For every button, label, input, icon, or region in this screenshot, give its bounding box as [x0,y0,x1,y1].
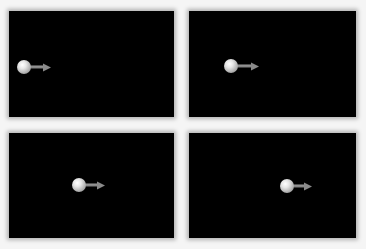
frame-2-panel [189,11,356,117]
figure-stage [0,0,366,249]
ball-icon [72,178,86,192]
ball-icon [224,59,238,73]
ball-icon [17,60,31,74]
velocity-arrow-icon [293,185,305,188]
frame-4-panel [189,133,356,238]
ball-icon [280,179,294,193]
velocity-arrow-icon [30,66,44,69]
velocity-arrow-icon [85,184,98,187]
velocity-arrow-icon [237,65,252,68]
frame-1-panel [9,11,174,117]
